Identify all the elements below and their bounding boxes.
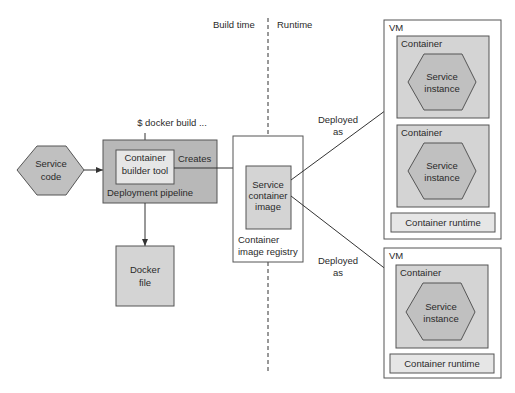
service-code-label-2: code (41, 171, 62, 182)
container-image-registry[interactable]: Service container image Container image … (233, 136, 303, 262)
builder-label-2: builder tool (122, 165, 168, 176)
docker-file-label: Docker (130, 264, 160, 275)
deployed-as-label-1b: as (333, 126, 343, 137)
container-label: Container (401, 127, 442, 138)
registry-label: Container (238, 234, 279, 245)
docker-build-command: $ docker build ... (137, 117, 207, 128)
instance-label-2: instance (424, 83, 459, 94)
builder-label: Container (124, 152, 165, 163)
container-label: Container (401, 38, 442, 49)
diagram-canvas: Build time Runtime $ docker build ... Se… (0, 0, 515, 393)
instance-label: Service (426, 160, 458, 171)
docker-file-box (116, 246, 174, 306)
service-code-label: Service (35, 158, 67, 169)
container-runtime-label: Container runtime (404, 358, 480, 369)
service-code-node[interactable]: Service code (17, 146, 84, 195)
instance-label-2: instance (424, 172, 459, 183)
deployed-as-label-2: Deployed (318, 255, 358, 266)
vm-2-label: VM (389, 250, 403, 261)
container-2a[interactable]: Container Service instance (396, 265, 488, 348)
vm-2[interactable]: VM Container Service instance Container … (384, 248, 501, 378)
instance-label: Service (425, 301, 457, 312)
creates-label: Creates (178, 153, 212, 164)
deployed-as-label-1: Deployed (318, 114, 358, 125)
container-runtime-label: Container runtime (405, 217, 481, 228)
image-label-2: container (248, 190, 287, 201)
image-label: Service (252, 179, 284, 190)
vm-1-label: VM (389, 22, 403, 33)
container-label: Container (400, 267, 441, 278)
docker-file-node[interactable]: Docker file (116, 246, 174, 306)
instance-label: Service (426, 71, 458, 82)
docker-file-label-2: file (139, 277, 151, 288)
image-label-3: image (255, 201, 281, 212)
deployment-pipeline[interactable]: Container builder tool Creates Deploymen… (103, 140, 217, 203)
build-time-label: Build time (213, 19, 255, 30)
runtime-label: Runtime (277, 19, 312, 30)
registry-label-2: image registry (238, 246, 298, 257)
container-1b[interactable]: Container Service instance (397, 125, 489, 207)
deployed-as-label-2b: as (333, 267, 343, 278)
pipeline-label: Deployment pipeline (107, 187, 193, 198)
vm-1[interactable]: VM Container Service instance Container … (384, 20, 501, 239)
container-1a[interactable]: Container Service instance (397, 36, 489, 118)
instance-label-2: instance (423, 313, 458, 324)
